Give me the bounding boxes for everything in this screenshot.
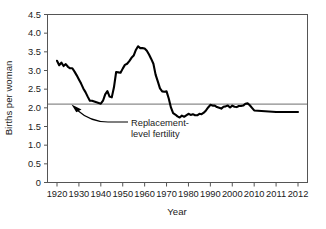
y-tick-label: 1.5 [28,122,41,132]
y-tick-label: 4.5 [28,10,41,20]
y-tick-label: 2.0 [28,103,41,113]
x-tick-label: 1980 [178,189,199,199]
annotation-label-line1: Replacement- [131,118,189,128]
x-tick-label: 1930 [69,189,90,199]
fertility-line-chart: 00.51.01.52.02.53.03.54.04.5 19201930194… [0,0,326,229]
y-tick-label: 1.0 [28,140,41,150]
x-tick-label: 1960 [134,189,155,199]
x-tick-label: 2000 [222,189,243,199]
x-tick-label: 2010 [244,189,265,199]
x-axis-tick-marks [57,183,298,187]
y-axis-title: Births per woman [3,61,14,136]
x-tick-label: 1990 [200,189,221,199]
x-tick-label: 1920 [47,189,68,199]
annotation-arrow [72,105,129,123]
fertility-rate-figure: 00.51.01.52.02.53.03.54.04.5 19201930194… [0,0,326,229]
x-tick-label: 2012 [288,189,309,199]
y-tick-label: 3.0 [28,66,41,76]
y-tick-label: 2.5 [28,84,41,94]
y-tick-label: 4.0 [28,28,41,38]
x-tick-label: 2011 [266,189,286,199]
plot-frame [48,15,308,183]
y-tick-label: 0 [36,178,41,188]
y-axis-tick-labels: 00.51.01.52.02.53.03.54.04.5 [28,10,41,188]
x-axis-title: Year [167,206,187,217]
fertility-series-line [57,46,298,117]
x-tick-label: 1940 [90,189,111,199]
y-tick-label: 3.5 [28,47,41,57]
x-axis-tick-labels: 1920193019401950196019701980199020002010… [47,189,309,199]
x-tick-label: 1970 [156,189,177,199]
annotation-label-line2: level fertility [131,129,180,139]
x-tick-label: 1950 [112,189,133,199]
y-tick-label: 0.5 [28,159,41,169]
